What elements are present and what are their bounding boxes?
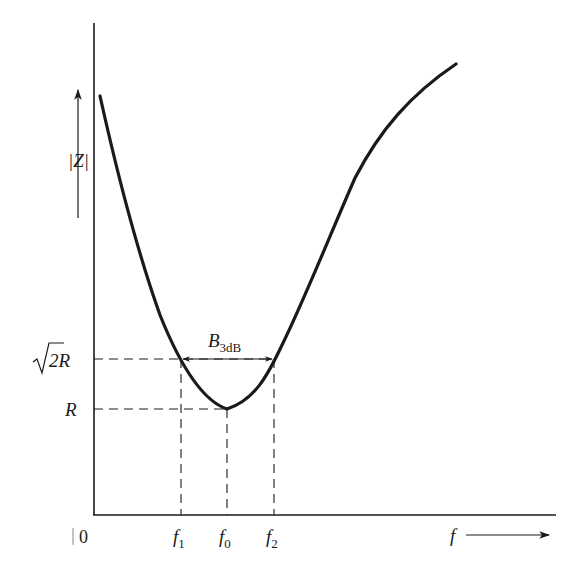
origin-label: 0 bbox=[73, 527, 88, 547]
y-axis-label: |Z| bbox=[68, 150, 89, 171]
x-tick-f1: f1 bbox=[173, 526, 185, 551]
y-tick-R: R bbox=[64, 399, 77, 420]
bandwidth-label: B3dB bbox=[208, 330, 242, 355]
x-axis-label: f bbox=[450, 525, 458, 546]
x-tick-f0: f0 bbox=[219, 526, 231, 551]
svg-text:2R: 2R bbox=[49, 350, 71, 371]
y-tick-sqrt2R: 2R bbox=[33, 343, 71, 373]
x-tick-f2: f2 bbox=[266, 526, 278, 551]
svg-text:0: 0 bbox=[79, 527, 88, 547]
impedance-curve bbox=[100, 64, 456, 409]
guide-lines bbox=[94, 359, 274, 515]
impedance-figure: |Z| B3dB 2R R 0 f1 f0 f2 f bbox=[0, 0, 587, 582]
